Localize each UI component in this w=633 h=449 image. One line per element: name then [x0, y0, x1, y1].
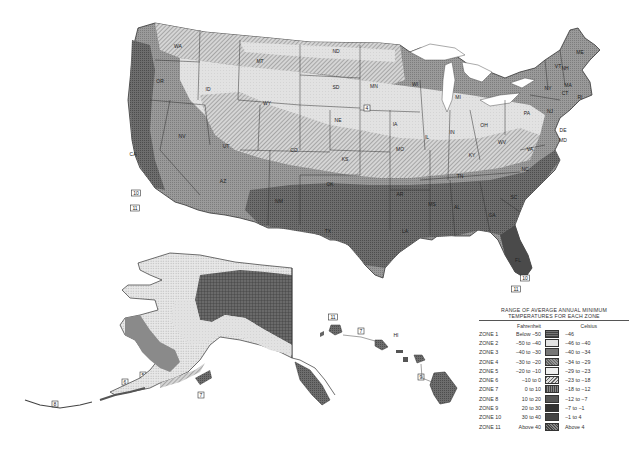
- zone-label: ZONE 3: [479, 349, 509, 355]
- state-label: NE: [335, 117, 343, 123]
- fahrenheit-range: −50 to −40: [509, 340, 545, 346]
- hawaii-inset: [320, 325, 457, 404]
- state-label: DE: [560, 127, 568, 133]
- legend-row: ZONE 6−10 to 0−23 to −18: [479, 375, 629, 384]
- svg-text:10: 10: [133, 190, 139, 196]
- svg-text:10: 10: [522, 275, 528, 281]
- state-label: CA: [130, 151, 138, 157]
- fahrenheit-range: 20 to 30: [509, 405, 545, 411]
- celsius-range: Above 4: [565, 424, 584, 430]
- state-label: NJ: [547, 108, 554, 114]
- legend-row: ZONE 1030 to 40−1 to 4: [479, 413, 629, 422]
- zone-label: ZONE 10: [479, 414, 509, 420]
- state-label: WY: [263, 100, 272, 106]
- state-label: ME: [576, 49, 584, 55]
- fahrenheit-range: Below −50: [509, 331, 545, 337]
- state-label: MO: [396, 146, 404, 152]
- state-label: CT: [562, 90, 569, 96]
- state-label: NY: [545, 85, 553, 91]
- zone-swatch: [545, 395, 559, 403]
- zone-label: ZONE 7: [479, 386, 509, 392]
- legend-row: ZONE 2−50 to −40−46 to −40: [479, 338, 629, 347]
- zone-number-tag: 10: [132, 190, 141, 196]
- svg-text:8: 8: [54, 401, 57, 407]
- zone-swatch: [545, 339, 559, 347]
- state-label: HI: [394, 332, 399, 338]
- state-label: UT: [223, 143, 230, 149]
- state-label: IL: [425, 134, 429, 140]
- zone-label: ZONE 11: [479, 424, 509, 430]
- svg-text:6: 6: [124, 379, 127, 385]
- state-label: IA: [393, 121, 398, 127]
- state-label: WA: [174, 43, 183, 49]
- celsius-range: −12 to −7: [565, 396, 587, 402]
- zone-number-tag: 8: [52, 401, 58, 407]
- state-label: KY: [469, 152, 476, 158]
- state-label: NM: [275, 198, 283, 204]
- legend-row: ZONE 1Below −50−46: [479, 329, 629, 338]
- celsius-range: −34 to −29: [565, 359, 590, 365]
- zone-number-tag: 9: [418, 374, 424, 380]
- svg-text:11: 11: [513, 286, 518, 292]
- state-label: KS: [342, 156, 349, 162]
- zone-swatch: [545, 423, 559, 431]
- state-label: MS: [428, 201, 436, 207]
- celsius-range: −23 to −18: [565, 377, 590, 383]
- state-label: TN: [457, 173, 464, 179]
- fahrenheit-range: 0 to 10: [509, 386, 545, 392]
- zone-swatch: [545, 348, 559, 356]
- state-label: WI: [412, 81, 418, 87]
- zone-number-tag: 4: [364, 105, 370, 111]
- state-label: SC: [511, 194, 518, 200]
- zone-number-tag: 11: [512, 286, 521, 292]
- state-label: AR: [397, 191, 404, 197]
- state-label: AL: [454, 204, 460, 210]
- zone-number-tag: 11: [131, 205, 140, 211]
- state-label: NC: [521, 166, 529, 172]
- svg-text:7: 7: [200, 392, 203, 398]
- zone-swatch: [545, 358, 559, 366]
- fahrenheit-header: Fahrenheit: [479, 323, 543, 329]
- zone-label: ZONE 4: [479, 359, 509, 365]
- zone-label: ZONE 6: [479, 377, 509, 383]
- state-label: OK: [326, 181, 334, 187]
- state-label: CO: [290, 147, 298, 153]
- fahrenheit-range: −20 to −10: [509, 368, 545, 374]
- legend-title: RANGE OF AVERAGE ANNUAL MINIMUM TEMPERAT…: [479, 307, 629, 321]
- zone-number-tag: 7: [358, 328, 364, 334]
- celsius-range: −7 to −1: [565, 405, 584, 411]
- legend-header: Fahrenheit Celsius: [479, 322, 629, 329]
- celsius-range: −29 to −23: [565, 368, 590, 374]
- svg-text:11: 11: [330, 314, 335, 320]
- legend-row: ZONE 3−40 to −30−40 to −34: [479, 348, 629, 357]
- state-label: VA: [527, 146, 534, 152]
- svg-text:11: 11: [132, 205, 137, 211]
- state-label: NV: [179, 133, 187, 139]
- state-label: ND: [332, 48, 340, 54]
- legend-row: ZONE 920 to 30−7 to −1: [479, 403, 629, 412]
- state-label: MI: [455, 94, 461, 100]
- fahrenheit-range: −30 to −20: [509, 359, 545, 365]
- state-label: LA: [402, 228, 409, 234]
- legend-row: ZONE 5−20 to −10−29 to −23: [479, 366, 629, 375]
- state-label: MT: [256, 58, 263, 64]
- zone-number-tag: 7: [198, 392, 204, 398]
- state-label: OH: [480, 122, 488, 128]
- celsius-range: −46: [565, 331, 574, 337]
- state-label: ID: [206, 86, 211, 92]
- svg-text:4: 4: [366, 105, 369, 111]
- legend-row: ZONE 810 to 20−12 to −7: [479, 394, 629, 403]
- svg-text:7: 7: [360, 328, 363, 334]
- alaska-inset: [25, 253, 335, 408]
- zone-swatch: [545, 404, 559, 412]
- zone-label: ZONE 9: [479, 405, 509, 411]
- zone-number-tag: 11: [329, 314, 338, 320]
- legend-row: ZONE 4−30 to −20−34 to −29: [479, 357, 629, 366]
- zone-label: ZONE 2: [479, 340, 509, 346]
- state-label: FL: [515, 257, 521, 263]
- celsius-range: −1 to 4: [565, 414, 581, 420]
- celsius-range: −40 to −34: [565, 349, 590, 355]
- fahrenheit-range: −10 to 0: [509, 377, 545, 383]
- fahrenheit-range: Above 40: [509, 424, 545, 430]
- legend-row: ZONE 11Above 40Above 4: [479, 422, 629, 431]
